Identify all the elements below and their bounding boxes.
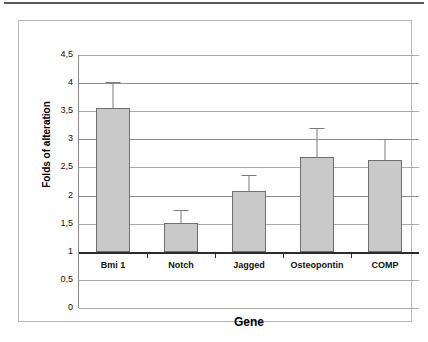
plot-area: Bmi 1NotchJaggedOsteopontinCOMP	[79, 55, 419, 308]
category-label: Osteopontin	[283, 260, 351, 270]
gridline	[79, 308, 419, 309]
bar-group	[79, 55, 147, 308]
y-axis-tick-label: 2	[33, 191, 73, 200]
category-tick	[351, 254, 352, 258]
bar	[232, 191, 266, 252]
error-bar-cap	[310, 128, 325, 129]
y-axis-tick-label: 0,5	[33, 275, 73, 284]
category-tick	[283, 254, 284, 258]
y-axis-tick-label: 1,5	[33, 219, 73, 228]
page-top-rule	[4, 2, 424, 4]
category-label: Bmi 1	[79, 260, 147, 270]
category-label: Notch	[147, 260, 215, 270]
bar	[368, 160, 402, 252]
chart-frame: 4,543,532,521,510,50 Folds of alteration…	[18, 20, 412, 322]
error-bar-stem	[317, 128, 318, 157]
y-axis-tick-label: 4	[33, 78, 73, 87]
error-bar-cap	[106, 82, 121, 83]
error-bar-cap	[174, 210, 189, 211]
bar-group	[351, 55, 419, 308]
bar-group	[147, 55, 215, 308]
error-bar-cap	[378, 139, 393, 140]
category-label: COMP	[351, 260, 419, 270]
category-tick	[147, 254, 148, 258]
y-axis-tick-label: 3,5	[33, 106, 73, 115]
y-axis-tick-label: 3	[33, 134, 73, 143]
y-axis-title: Folds of alteration	[41, 85, 52, 205]
error-bar-stem	[385, 139, 386, 159]
y-axis-tick-label: 2,5	[33, 162, 73, 171]
y-axis-tick-label: 4,5	[33, 50, 73, 59]
y-axis-tick-label: 1	[33, 247, 73, 256]
category-label: Jagged	[215, 260, 283, 270]
y-axis-tick-label: 0	[33, 303, 73, 312]
bar-group	[215, 55, 283, 308]
x-axis-title: Gene	[79, 315, 419, 329]
bar	[300, 157, 334, 251]
error-bar-stem	[249, 175, 250, 191]
category-axis-line	[79, 252, 419, 254]
bar	[164, 223, 198, 252]
error-bar-stem	[113, 82, 114, 108]
bar-group	[283, 55, 351, 308]
error-bar-cap	[242, 175, 257, 176]
category-tick	[215, 254, 216, 258]
bar	[96, 108, 130, 251]
error-bar-stem	[181, 210, 182, 223]
